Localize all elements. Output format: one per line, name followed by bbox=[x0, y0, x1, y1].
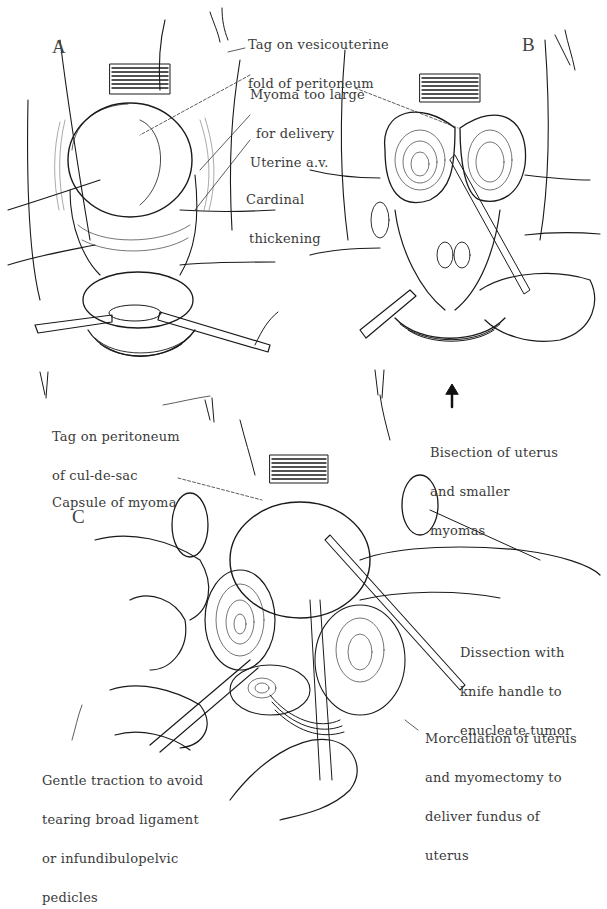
bisection-arrow-icon bbox=[446, 384, 458, 407]
panel-label-a: A bbox=[52, 36, 66, 58]
label-capsule-of-myoma: Capsule of myoma bbox=[52, 470, 177, 535]
panel-label-b: B bbox=[522, 34, 535, 56]
label-morcellation: Morcellation of uterus and myomectomy to… bbox=[425, 706, 577, 888]
label-bisection-of-uterus: Bisection of uterus and smaller myomas bbox=[430, 420, 558, 563]
label-gentle-traction: Gentle traction to avoid tearing broad l… bbox=[42, 748, 203, 909]
panel-a-drawing bbox=[8, 8, 278, 398]
label-cardinal-thickening: Cardinal thickening bbox=[246, 167, 321, 271]
